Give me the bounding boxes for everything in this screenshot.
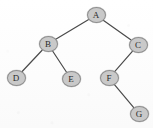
tree-node-d[interactable]: D — [7, 70, 26, 86]
tree-node-g[interactable]: G — [130, 106, 149, 122]
tree-edge-b-d — [22, 50, 42, 71]
tree-node-label: C — [135, 40, 141, 49]
binary-tree-diagram: ABCDEFG — [0, 0, 153, 128]
tree-node-label: B — [45, 39, 51, 48]
tree-node-label: E — [68, 74, 74, 83]
tree-edge-c-f — [115, 51, 133, 71]
tree-node-e[interactable]: E — [62, 71, 81, 87]
tree-node-c[interactable]: C — [129, 37, 148, 53]
tree-node-f[interactable]: F — [100, 70, 119, 86]
tree-node-label: D — [13, 73, 20, 82]
tree-node-label: A — [93, 10, 100, 19]
tree-edge-layer — [0, 0, 153, 128]
tree-edge-f-g — [114, 85, 133, 108]
tree-node-label: G — [136, 109, 143, 118]
tree-edge-b-e — [53, 51, 67, 72]
tree-node-label: F — [106, 73, 111, 82]
tree-edge-a-b — [56, 20, 89, 40]
tree-edge-a-c — [103, 20, 131, 40]
tree-node-b[interactable]: B — [39, 36, 58, 52]
tree-node-a[interactable]: A — [87, 7, 106, 23]
